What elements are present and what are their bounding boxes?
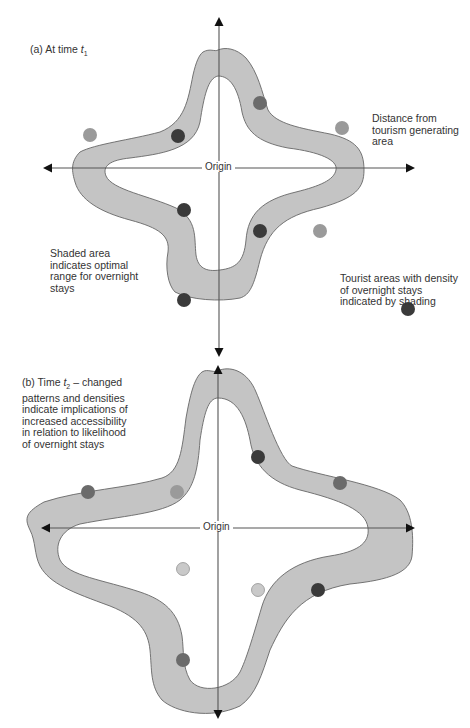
tourist-area-dot [311, 583, 325, 597]
distance-annotation: Distance from tourism generating area [372, 113, 470, 148]
tourist-area-dot [83, 128, 97, 142]
tourist-area-dot [252, 584, 265, 597]
tourist-area-dot [177, 293, 191, 307]
tourist-area-dot [253, 96, 267, 110]
tourist-areas-annotation: Tourist areas with density of overnight … [340, 273, 465, 308]
diagram-canvas [0, 0, 470, 728]
tourist-area-dot [253, 224, 267, 238]
tourist-area-dot [177, 563, 190, 576]
arrowhead-left-a [43, 164, 52, 173]
origin-label-a: Origin [202, 161, 235, 172]
arrowhead-down-b [214, 710, 223, 719]
tourist-area-dot [313, 224, 327, 238]
shaded-area-annotation: Shaded area indicates optimal range for … [50, 248, 150, 294]
arrowhead-down-a [215, 348, 224, 357]
tourist-area-dot [81, 485, 95, 499]
tourist-area-dot [335, 121, 349, 135]
tourist-area-dot [177, 203, 191, 217]
arrowhead-up-a [215, 17, 224, 26]
tourist-area-dot [176, 653, 190, 667]
tourist-area-dot [333, 476, 347, 490]
arrowhead-right-a [406, 164, 415, 173]
panel-b-title: (b) Time t2 – changed patterns and densi… [22, 377, 134, 450]
time-subscript: 1 [84, 50, 88, 57]
panel-b-title-text: (b) Time [22, 376, 63, 388]
panel-a-title: (a) At time t1 [30, 44, 88, 60]
tourist-area-dot [170, 485, 184, 499]
tourist-area-dot [171, 129, 185, 143]
tourist-area-dot [251, 450, 265, 464]
origin-label-b: Origin [200, 521, 233, 532]
panel-a-title-text: (a) At time [30, 43, 81, 55]
